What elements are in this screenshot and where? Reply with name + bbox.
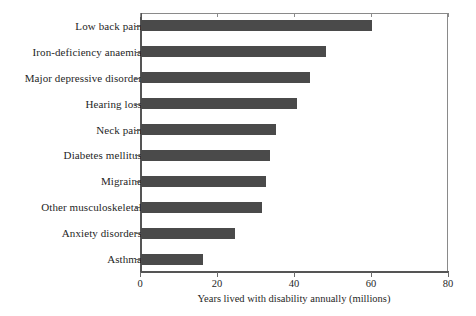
x-axis-tick xyxy=(371,272,372,277)
x-axis-tick-top xyxy=(371,13,372,17)
x-axis-tick-label: 60 xyxy=(351,278,391,290)
x-axis-tick-top xyxy=(294,13,295,17)
x-axis-ticks-container: 020406080 xyxy=(0,0,476,316)
x-axis-tick-label: 0 xyxy=(120,278,160,290)
x-axis-tick-label: 20 xyxy=(197,278,237,290)
x-axis-tick-top xyxy=(217,13,218,17)
x-axis-tick xyxy=(448,272,449,277)
x-axis-tick xyxy=(294,272,295,277)
x-axis-tick xyxy=(217,272,218,277)
x-axis-tick-label: 40 xyxy=(274,278,314,290)
x-axis-tick-label: 80 xyxy=(428,278,468,290)
x-axis-tick-top xyxy=(140,13,141,17)
x-axis-tick-top xyxy=(448,13,449,17)
bar-chart: Low back painIron-deficiency anaemiaMajo… xyxy=(0,0,476,316)
x-axis-tick xyxy=(140,272,141,277)
x-axis-title: Years lived with disability annually (mi… xyxy=(140,292,448,305)
